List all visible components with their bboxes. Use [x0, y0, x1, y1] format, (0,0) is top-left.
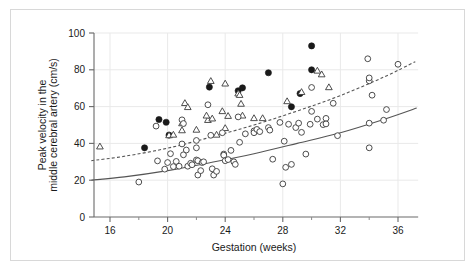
x-tick-label: 32: [335, 225, 347, 236]
data-point-open-circle: [136, 179, 142, 185]
y-axis-title: middle cerebral artery (cm/s): [47, 58, 59, 192]
data-point-filled-circle: [265, 70, 271, 76]
data-point-filled-circle: [156, 116, 162, 122]
data-point-open-circle: [283, 164, 289, 170]
data-point-open-circle: [365, 56, 371, 62]
data-point-open-circle: [194, 145, 200, 151]
x-tick-label: 28: [277, 225, 289, 236]
scatter-plot: 020406080100162024283236Gestation (weeks…: [0, 0, 475, 273]
data-point-open-circle: [296, 120, 302, 126]
data-point-open-circle: [323, 121, 329, 127]
y-tick-label: 40: [74, 138, 86, 149]
data-point-open-circle: [214, 168, 220, 174]
data-point-open-circle: [384, 107, 390, 113]
data-point-open-circle: [257, 129, 263, 135]
data-point-open-circle: [323, 115, 329, 121]
y-tick-label: 100: [68, 28, 85, 39]
x-tick-label: 36: [392, 225, 404, 236]
data-point-open-circle: [280, 181, 286, 187]
data-point-open-circle: [198, 168, 204, 174]
data-point-open-circle: [369, 92, 375, 98]
data-point-open-circle: [228, 147, 234, 153]
data-point-open-circle: [289, 161, 295, 167]
data-point-open-circle: [366, 120, 372, 126]
data-point-filled-circle: [141, 145, 147, 151]
data-point-open-circle: [242, 131, 248, 137]
data-point-filled-circle: [163, 119, 169, 125]
data-point-open-circle: [366, 145, 372, 151]
data-point-open-circle: [208, 132, 214, 138]
data-point-open-circle: [237, 139, 243, 145]
data-point-open-circle: [162, 166, 168, 172]
data-point-open-circle: [286, 121, 292, 127]
data-point-filled-circle: [206, 84, 212, 90]
data-point-open-circle: [277, 120, 283, 126]
data-point-open-circle: [366, 75, 372, 81]
data-point-open-circle: [176, 163, 182, 169]
data-point-open-circle: [330, 100, 336, 106]
data-point-open-circle: [153, 123, 159, 129]
data-point-open-circle: [309, 108, 315, 114]
data-point-open-circle: [179, 141, 185, 147]
data-point-open-circle: [189, 162, 195, 168]
x-axis-title: Gestation (weeks): [212, 241, 297, 253]
data-point-open-circle: [303, 151, 309, 157]
data-point-open-circle: [219, 130, 225, 136]
data-point-open-circle: [235, 114, 241, 120]
data-point-open-circle: [281, 138, 287, 144]
data-point-open-circle: [168, 151, 174, 157]
y-tick-label: 60: [74, 101, 86, 112]
data-point-open-circle: [183, 147, 189, 153]
data-point-open-circle: [201, 159, 207, 165]
data-point-open-circle: [181, 121, 187, 127]
data-point-filled-circle: [239, 85, 245, 91]
x-tick-label: 20: [162, 225, 174, 236]
y-tick-label: 20: [74, 175, 86, 186]
data-point-open-circle: [155, 158, 161, 164]
data-point-open-circle: [395, 61, 401, 67]
data-point-open-circle: [314, 116, 320, 122]
chart-figure: 020406080100162024283236Gestation (weeks…: [0, 0, 475, 273]
data-point-open-circle: [335, 133, 341, 139]
data-point-open-circle: [307, 121, 313, 127]
y-tick-label: 0: [79, 212, 85, 223]
data-point-filled-circle: [309, 43, 315, 49]
data-point-open-circle: [232, 161, 238, 167]
data-point-open-circle: [267, 127, 273, 133]
data-point-open-circle: [225, 157, 231, 163]
data-point-open-circle: [194, 138, 200, 144]
data-point-open-circle: [309, 85, 315, 91]
data-point-open-circle: [165, 160, 171, 166]
data-point-open-circle: [205, 102, 211, 108]
data-point-open-circle: [299, 129, 305, 135]
x-tick-label: 16: [104, 225, 116, 236]
x-tick-label: 24: [220, 225, 232, 236]
data-point-filled-circle: [309, 67, 315, 73]
data-point-open-circle: [381, 117, 387, 123]
y-tick-label: 80: [74, 64, 86, 75]
data-point-filled-circle: [288, 104, 294, 110]
data-point-open-circle: [270, 156, 276, 162]
